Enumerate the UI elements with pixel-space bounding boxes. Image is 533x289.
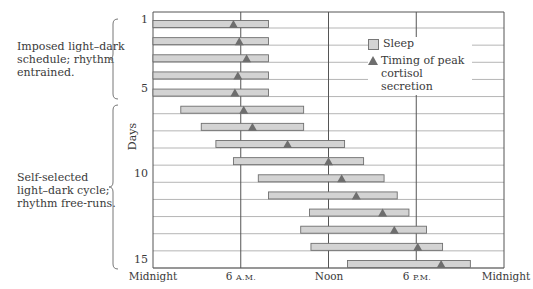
x-tick-midnight-end: Midnight	[482, 270, 531, 282]
sleep-bar	[153, 55, 269, 62]
sleep-bar	[269, 192, 398, 199]
legend-item-cortisol: Timing of peak cortisol secretion	[368, 54, 472, 93]
x-tick-midnight-start: Midnight	[129, 270, 178, 282]
sleep-bar	[311, 243, 443, 250]
legend-label: Sleep	[383, 37, 414, 50]
sleep-bar	[309, 209, 408, 216]
legend: Sleep Timing of peak cortisol secretion	[368, 37, 472, 95]
legend-label: Timing of peak cortisol secretion	[381, 54, 472, 93]
x-tick-noon: Noon	[315, 270, 344, 282]
triangle-marker-icon	[368, 56, 378, 65]
sleep-bar	[153, 21, 269, 28]
x-tick-6am: 6 A.M.	[226, 270, 256, 282]
sleep-bar	[153, 72, 269, 79]
legend-item-sleep: Sleep	[368, 37, 472, 50]
sleep-bar	[233, 158, 363, 165]
sleep-bar	[153, 38, 269, 45]
sleep-bar	[216, 141, 345, 148]
sleep-bar	[348, 261, 471, 268]
sleep-bar	[153, 89, 269, 96]
x-tick-6pm: 6 P.M.	[403, 270, 431, 282]
sleep-swatch-icon	[368, 39, 379, 50]
sleep-bar	[258, 175, 384, 182]
sleep-bar	[301, 226, 427, 233]
